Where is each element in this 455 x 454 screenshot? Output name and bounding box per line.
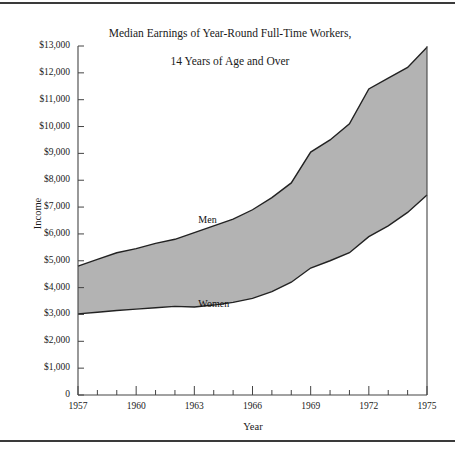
earnings-band <box>78 47 427 314</box>
x-tick-label: 1960 <box>114 401 158 411</box>
y-tick-label: $13,000 <box>8 40 70 50</box>
y-tick-label: $3,000 <box>8 308 70 318</box>
y-tick-label: $10,000 <box>8 121 70 131</box>
x-tick-label: 1963 <box>172 401 216 411</box>
series-label-women: Women <box>198 298 229 309</box>
x-tick-label: 1969 <box>289 401 333 411</box>
series-label-men: Men <box>198 214 216 225</box>
y-tick-label: $9,000 <box>8 147 70 157</box>
chart-figure: Median Earnings of Year-Round Full-Time … <box>0 0 455 454</box>
x-tick-label: 1957 <box>56 401 100 411</box>
y-tick-label: $12,000 <box>8 67 70 77</box>
y-tick-label: $8,000 <box>8 174 70 184</box>
y-tick-label: $6,000 <box>8 228 70 238</box>
y-tick-label: $1,000 <box>8 362 70 372</box>
y-tick-label: $5,000 <box>8 255 70 265</box>
x-tick-label: 1972 <box>347 401 391 411</box>
x-tick-label: 1975 <box>405 401 449 411</box>
y-tick-label: $7,000 <box>8 201 70 211</box>
x-tick-label: 1966 <box>231 401 275 411</box>
y-tick-label: 0 <box>8 389 70 399</box>
y-tick-label: $2,000 <box>8 335 70 345</box>
y-tick-label: $4,000 <box>8 282 70 292</box>
y-tick-label: $11,000 <box>8 94 70 104</box>
